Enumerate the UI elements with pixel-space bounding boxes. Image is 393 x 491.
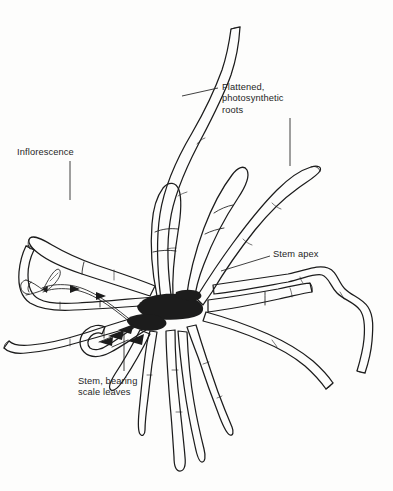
- plant-illustration: .ink { fill:none; stroke:#1c1c1c; stroke…: [0, 0, 393, 491]
- label-inflorescence: Inflorescence: [17, 147, 74, 158]
- root-bottom-short: [138, 331, 157, 435]
- root-tip-upper-middle: [151, 183, 181, 298]
- label-stem-bearing-scale-leaves: Stem, bearing scale leaves: [78, 376, 137, 399]
- label-flattened-photosynthetic-roots: Flattened, photosynthetic roots: [222, 82, 284, 116]
- root-bottom-mid: [178, 331, 205, 462]
- botanical-figure: .ink { fill:none; stroke:#1c1c1c; stroke…: [0, 0, 393, 491]
- root-bottom-center: [166, 330, 185, 471]
- leader-lines: [70, 88, 290, 371]
- root-upper-tall: [157, 27, 240, 302]
- label-stem-apex: Stem apex: [273, 249, 319, 260]
- root-bottom-right: [187, 325, 233, 435]
- root-lower-right: [203, 312, 333, 389]
- leader-stem-apex: [221, 256, 270, 271]
- inflorescence: [21, 269, 130, 322]
